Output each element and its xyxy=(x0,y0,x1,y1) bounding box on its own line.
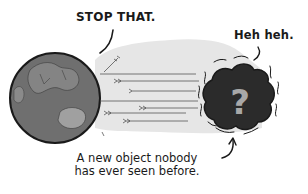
earth-speech-text: STOP THAT. xyxy=(76,10,156,24)
caption-line-2: has ever seen before. xyxy=(62,165,212,178)
svg-text:?: ? xyxy=(230,82,250,122)
object-speech-tail xyxy=(254,47,260,60)
earth-icon xyxy=(10,53,100,143)
caption-arrow-icon xyxy=(222,140,233,158)
mystery-object-icon: ? xyxy=(203,64,274,129)
comic-panel: ? STOP THAT. Heh heh. A new object nobod… xyxy=(0,0,308,194)
caption: A new object nobody has ever seen before… xyxy=(62,152,212,178)
earth-speech-tail xyxy=(100,30,113,53)
object-speech-text: Heh heh. xyxy=(234,28,294,42)
